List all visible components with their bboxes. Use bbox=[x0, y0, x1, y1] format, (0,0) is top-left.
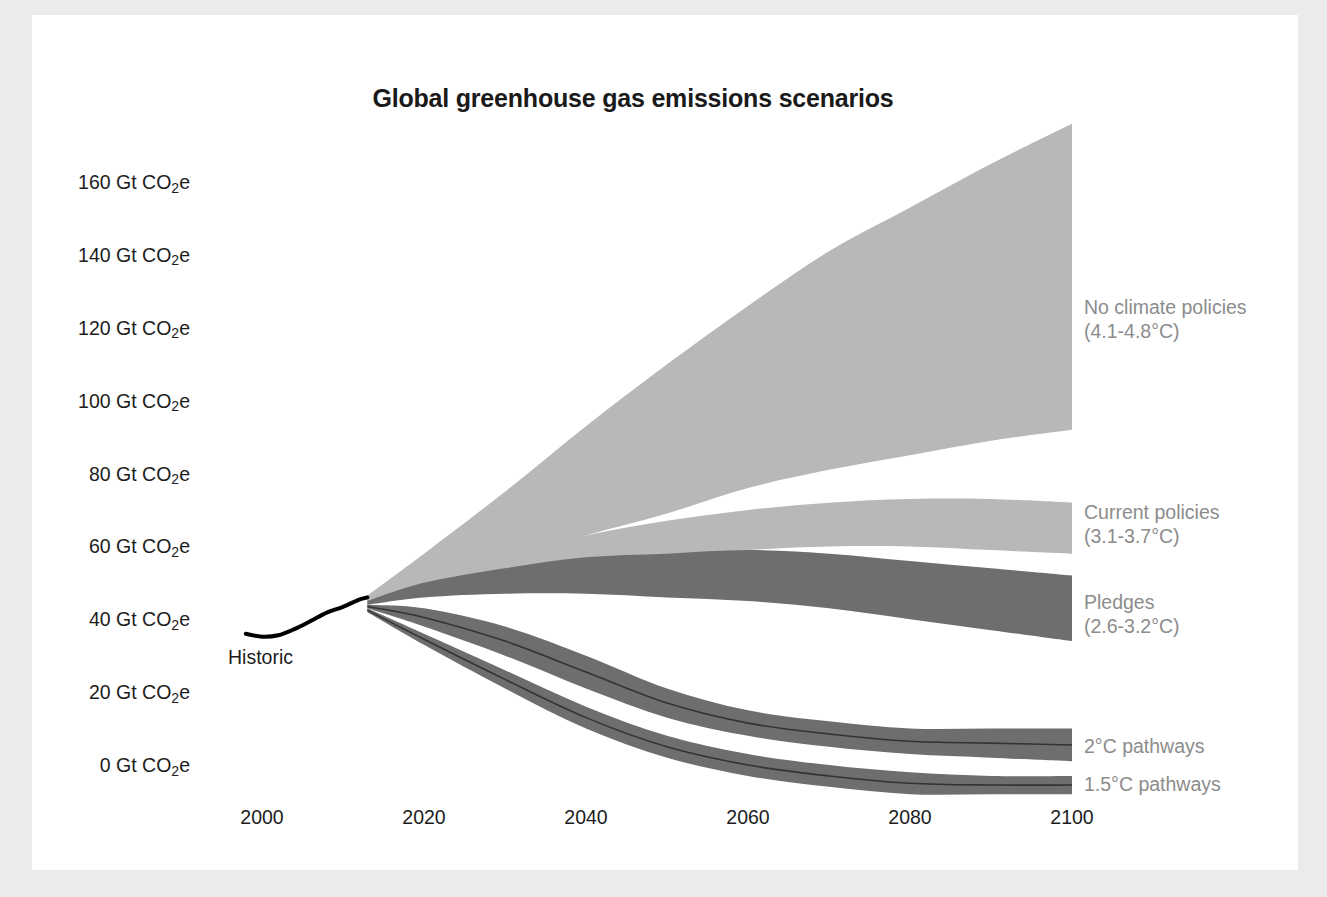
series-label-line2: (4.1-4.8°C) bbox=[1084, 319, 1247, 343]
series-label-current-policies: Current policies (3.1-3.7°C) bbox=[1084, 500, 1219, 549]
series-label-line1: Pledges bbox=[1084, 591, 1154, 613]
series-label-line1: No climate policies bbox=[1084, 296, 1247, 318]
series-label-no-climate-policies: No climate policies (4.1-4.8°C) bbox=[1084, 295, 1247, 344]
series-label-line1: 1.5°C pathways bbox=[1084, 773, 1221, 795]
chart-figure: Global greenhouse gas emissions scenario… bbox=[0, 0, 1327, 897]
x-tick-label: 2100 bbox=[1050, 806, 1093, 829]
historic-annotation: Historic bbox=[228, 645, 293, 669]
x-tick-label: 2060 bbox=[726, 806, 769, 829]
series-label-line2: (3.1-3.7°C) bbox=[1084, 524, 1219, 548]
series-label-pledges: Pledges (2.6-3.2°C) bbox=[1084, 590, 1180, 639]
x-tick-label: 2080 bbox=[888, 806, 931, 829]
x-tick-label: 2040 bbox=[564, 806, 607, 829]
series-label-two-degree-pathways: 2°C pathways bbox=[1084, 734, 1205, 758]
historic-line bbox=[246, 597, 367, 636]
series-label-line1: Current policies bbox=[1084, 501, 1219, 523]
series-label-one-point-five-degree-pathways: 1.5°C pathways bbox=[1084, 772, 1221, 796]
band-2-c-pathways bbox=[367, 605, 1072, 762]
series-label-line2: (2.6-3.2°C) bbox=[1084, 614, 1180, 638]
x-tick-label: 2000 bbox=[240, 806, 283, 829]
series-label-line1: 2°C pathways bbox=[1084, 735, 1205, 757]
plot-area bbox=[0, 0, 1327, 897]
x-tick-label: 2020 bbox=[402, 806, 445, 829]
